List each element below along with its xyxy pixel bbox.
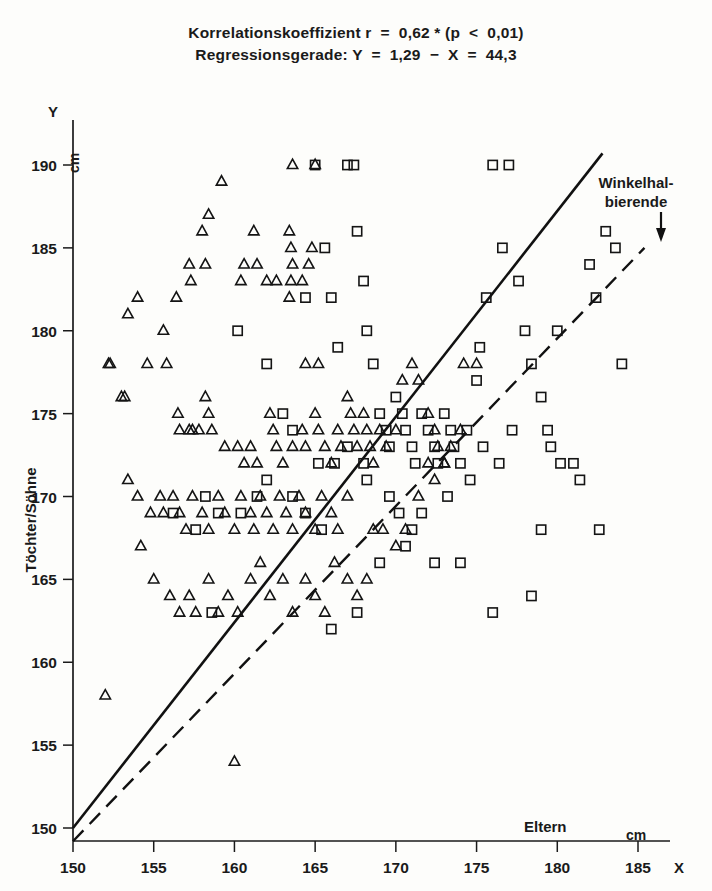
data-point-triangle bbox=[236, 275, 246, 284]
data-point-triangle bbox=[391, 540, 401, 549]
data-point-square bbox=[514, 276, 523, 285]
data-point-square bbox=[288, 426, 297, 435]
data-point-triangle bbox=[255, 557, 265, 566]
data-point-square bbox=[327, 625, 336, 634]
data-point-triangle bbox=[123, 474, 133, 483]
bisector-line bbox=[73, 248, 644, 841]
y-tick-label: 150 bbox=[31, 820, 57, 837]
data-point-triangle bbox=[265, 408, 275, 417]
data-point-triangle bbox=[287, 159, 297, 168]
data-point-triangle bbox=[216, 176, 226, 185]
data-point-triangle bbox=[252, 458, 262, 467]
data-point-triangle bbox=[362, 424, 372, 433]
y-tick-label: 180 bbox=[31, 323, 57, 340]
data-point-triangle bbox=[200, 259, 210, 268]
data-point-square bbox=[617, 359, 626, 368]
data-point-triangle bbox=[252, 259, 262, 268]
data-point-square bbox=[349, 160, 358, 169]
data-point-square bbox=[507, 426, 516, 435]
data-point-triangle bbox=[239, 259, 249, 268]
data-point-square bbox=[191, 525, 200, 534]
data-point-triangle bbox=[316, 491, 326, 500]
data-point-triangle bbox=[262, 507, 272, 516]
data-point-triangle bbox=[245, 441, 255, 450]
bisector-label-line-2: bierende bbox=[605, 193, 668, 210]
data-point-triangle bbox=[278, 574, 288, 583]
data-point-triangle bbox=[303, 259, 313, 268]
data-point-triangle bbox=[145, 507, 155, 516]
data-point-triangle bbox=[168, 491, 178, 500]
data-point-square bbox=[488, 160, 497, 169]
data-point-triangle bbox=[368, 458, 378, 467]
data-point-triangle bbox=[297, 424, 307, 433]
data-point-square bbox=[575, 475, 584, 484]
data-point-square bbox=[375, 409, 384, 418]
data-point-triangle bbox=[171, 292, 181, 301]
data-point-triangle bbox=[300, 574, 310, 583]
data-point-triangle bbox=[333, 524, 343, 533]
data-point-square bbox=[327, 293, 336, 302]
data-point-square bbox=[527, 591, 536, 600]
data-point-square bbox=[478, 442, 487, 451]
data-point-triangle bbox=[320, 607, 330, 616]
data-point-triangle bbox=[423, 458, 433, 467]
data-point-triangle bbox=[197, 225, 207, 234]
data-point-triangle bbox=[287, 524, 297, 533]
data-point-triangle bbox=[391, 424, 401, 433]
y-tick-label: 165 bbox=[31, 571, 57, 588]
x-tick-label: 175 bbox=[464, 859, 490, 876]
y-tick-label: 160 bbox=[31, 654, 57, 671]
data-point-square bbox=[411, 459, 420, 468]
data-point-square bbox=[569, 459, 578, 468]
data-point-triangle bbox=[155, 491, 165, 500]
y-axis-symbol: Y bbox=[48, 103, 58, 120]
data-point-triangle bbox=[352, 590, 362, 599]
data-point-triangle bbox=[286, 275, 296, 284]
data-point-triangle bbox=[300, 441, 310, 450]
y-tick-label: 185 bbox=[31, 240, 57, 257]
data-point-triangle bbox=[358, 408, 368, 417]
data-point-triangle bbox=[284, 225, 294, 234]
data-point-square bbox=[595, 525, 604, 534]
data-point-triangle bbox=[413, 375, 423, 384]
data-point-triangle bbox=[187, 491, 197, 500]
data-point-square bbox=[475, 343, 484, 352]
data-point-triangle bbox=[274, 491, 284, 500]
data-point-square bbox=[401, 542, 410, 551]
data-point-triangle bbox=[158, 507, 168, 516]
data-point-square bbox=[262, 475, 271, 484]
data-point-triangle bbox=[123, 308, 133, 317]
data-point-triangle bbox=[220, 441, 230, 450]
data-point-square bbox=[391, 392, 400, 401]
data-point-triangle bbox=[236, 491, 246, 500]
data-point-triangle bbox=[229, 756, 239, 765]
data-point-square bbox=[262, 359, 271, 368]
data-point-triangle bbox=[200, 391, 210, 400]
data-point-triangle bbox=[271, 441, 281, 450]
data-point-triangle bbox=[265, 590, 275, 599]
x-tick-label: 170 bbox=[383, 859, 409, 876]
data-point-triangle bbox=[136, 540, 146, 549]
data-point-triangle bbox=[320, 441, 330, 450]
data-markers-group bbox=[100, 159, 626, 765]
data-point-square bbox=[495, 459, 504, 468]
data-point-triangle bbox=[249, 524, 259, 533]
data-point-triangle bbox=[203, 408, 213, 417]
data-point-square bbox=[301, 293, 310, 302]
data-point-square bbox=[543, 426, 552, 435]
data-point-square bbox=[443, 492, 452, 501]
x-tick-label: 180 bbox=[544, 859, 570, 876]
data-point-square bbox=[446, 426, 455, 435]
data-point-triangle bbox=[174, 424, 184, 433]
data-point-triangle bbox=[326, 507, 336, 516]
data-point-triangle bbox=[184, 590, 194, 599]
data-point-triangle bbox=[249, 225, 259, 234]
data-point-square bbox=[320, 243, 329, 252]
data-point-square bbox=[407, 442, 416, 451]
data-point-square bbox=[601, 227, 610, 236]
data-point-triangle bbox=[333, 424, 343, 433]
y-tick-label: 175 bbox=[31, 406, 57, 423]
data-point-triangle bbox=[190, 607, 200, 616]
data-point-triangle bbox=[413, 491, 423, 500]
data-point-square bbox=[362, 475, 371, 484]
